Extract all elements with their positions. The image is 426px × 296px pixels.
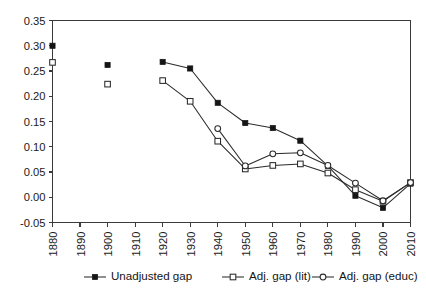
legend-marker — [230, 274, 236, 280]
legend-marker — [92, 274, 97, 279]
data-point-marker — [298, 138, 303, 143]
data-point-marker — [380, 198, 386, 204]
data-point-marker — [215, 126, 221, 132]
data-point-marker — [325, 163, 331, 169]
data-point-marker — [353, 180, 359, 186]
x-tick-label: 1970 — [295, 232, 307, 257]
y-tick-label: 0.25 — [24, 65, 46, 77]
data-point-marker — [242, 163, 248, 169]
x-tick-label: 2000 — [377, 232, 389, 257]
x-tick-label: 1940 — [212, 232, 224, 257]
legend-label: Adj. gap (lit) — [249, 269, 311, 282]
x-tick-label: 1960 — [267, 232, 279, 257]
line-chart: 0.350.300.250.200.150.100.050.00-0.05 18… — [0, 0, 426, 296]
legend-label: Adj. gap (educ) — [339, 269, 418, 282]
y-tick-label: 0.20 — [24, 90, 46, 102]
y-tick-label: 0.30 — [24, 40, 46, 52]
data-point-marker — [297, 150, 303, 156]
legend-marker — [320, 274, 326, 280]
data-point-marker — [380, 205, 385, 210]
data-point-marker — [353, 187, 359, 193]
data-point-marker — [270, 125, 275, 130]
chart-container: 0.350.300.250.200.150.100.050.00-0.05 18… — [0, 0, 426, 296]
data-point-marker — [408, 180, 414, 186]
y-tick-label: 0.10 — [24, 141, 46, 153]
x-tick-label: 2010 — [405, 232, 417, 257]
chart-legend: Unadjusted gapAdj. gap (lit)Adj. gap (ed… — [84, 269, 418, 282]
y-tick-label: 0.05 — [24, 166, 46, 178]
data-point-marker — [270, 151, 276, 157]
data-point-marker — [187, 99, 193, 105]
x-tick-label: 1980 — [322, 232, 334, 257]
data-point-marker — [325, 170, 331, 176]
x-tick-label: 1930 — [185, 232, 197, 257]
y-tick-label: 0.15 — [24, 116, 46, 128]
data-point-marker — [298, 161, 304, 167]
data-point-marker — [105, 81, 111, 87]
y-axis-tick-labels: 0.350.300.250.200.150.100.050.00-0.05 — [20, 15, 46, 229]
x-tick-label: 1890 — [75, 232, 87, 257]
data-point-marker — [50, 43, 55, 48]
data-point-marker — [188, 66, 193, 71]
data-point-marker — [215, 100, 220, 105]
data-point-marker — [50, 60, 56, 66]
data-point-marker — [105, 62, 110, 67]
y-tick-label: 0.35 — [24, 15, 46, 27]
data-point-marker — [215, 138, 221, 144]
x-tick-label: 1950 — [240, 232, 252, 257]
x-tick-label: 1990 — [350, 232, 362, 257]
x-tick-label: 1920 — [157, 232, 169, 257]
data-point-marker — [160, 59, 165, 64]
data-point-marker — [353, 193, 358, 198]
legend-label: Unadjusted gap — [111, 269, 192, 282]
data-point-marker — [270, 163, 276, 169]
y-tick-label: 0.00 — [24, 191, 46, 203]
data-point-marker — [243, 120, 248, 125]
x-tick-label: 1900 — [102, 232, 114, 257]
x-tick-label: 1880 — [47, 232, 59, 257]
data-point-marker — [160, 78, 166, 84]
y-tick-label: -0.05 — [20, 217, 46, 229]
x-tick-label: 1910 — [130, 232, 142, 257]
